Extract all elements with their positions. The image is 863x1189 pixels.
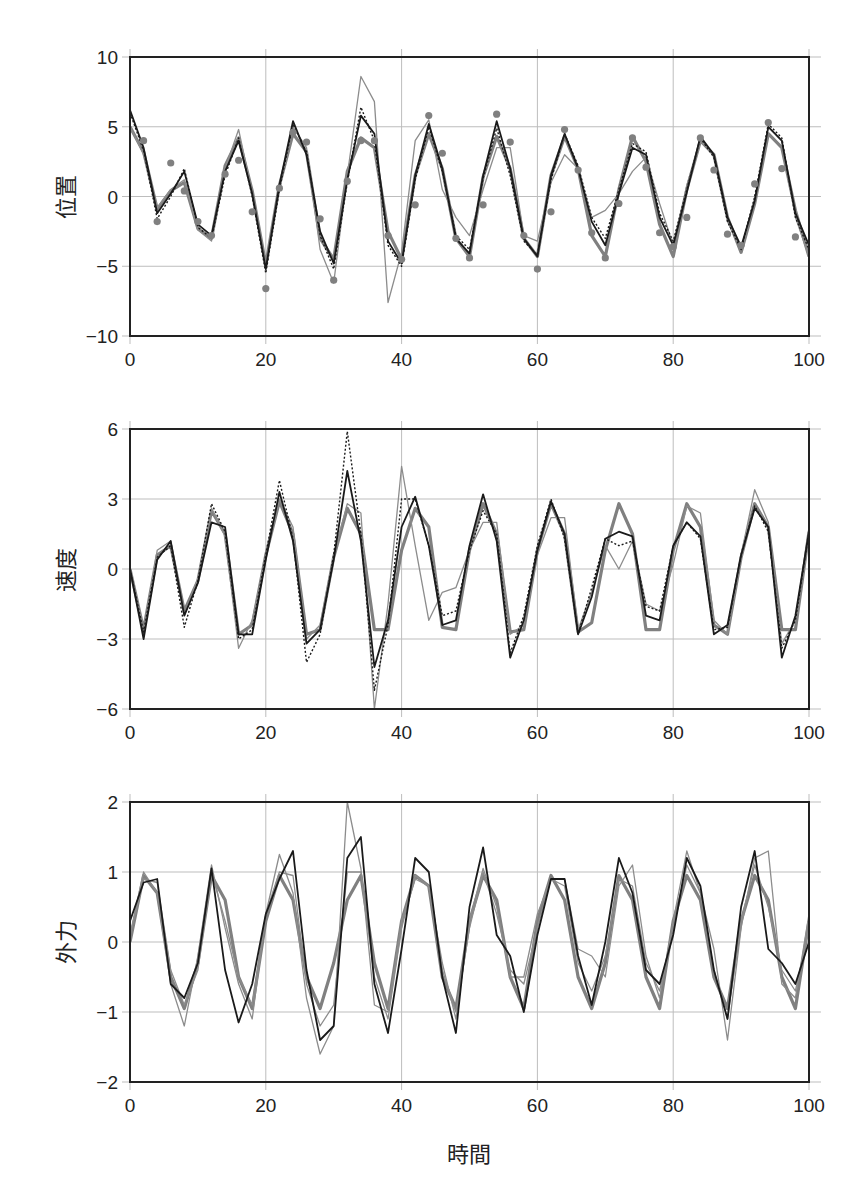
y-axis-label: 位置	[54, 175, 79, 219]
observation-dot	[289, 129, 296, 136]
x-tick-label: 0	[125, 1095, 136, 1116]
observation-dot	[602, 254, 609, 261]
x-tick-label: 80	[663, 1095, 684, 1116]
observation-dot	[167, 159, 174, 166]
observation-dot	[792, 233, 799, 240]
y-tick-label: −3	[96, 629, 118, 650]
observation-dot	[344, 178, 351, 185]
x-tick-label: 80	[663, 722, 684, 743]
y-tick-label: −1	[96, 1002, 118, 1023]
observation-dot	[778, 165, 785, 172]
x-tick-label: 40	[391, 722, 412, 743]
observation-dot	[221, 171, 228, 178]
y-tick-label: 10	[97, 47, 118, 68]
observation-dot	[357, 137, 364, 144]
panel-position: 0204060801001050−5−10位置	[54, 47, 825, 370]
plot-area	[130, 431, 809, 709]
observation-dot	[534, 265, 541, 272]
observation-dot	[765, 119, 772, 126]
x-tick-label: 40	[391, 349, 412, 370]
y-tick-label: 5	[107, 117, 118, 138]
observation-dot	[588, 229, 595, 236]
observation-dot	[670, 243, 677, 250]
x-tick-label: 20	[255, 349, 276, 370]
x-tick-label: 100	[793, 722, 825, 743]
y-tick-label: −10	[86, 326, 118, 347]
observation-dot	[724, 231, 731, 238]
series-black-dotted	[130, 107, 809, 273]
observation-dot	[425, 112, 432, 119]
series-black-dotted	[130, 431, 809, 690]
observation-dot	[547, 208, 554, 215]
y-axis-label: 速度	[54, 548, 79, 592]
observation-dot	[561, 126, 568, 133]
y-tick-label: −6	[96, 699, 118, 720]
observation-dot	[208, 232, 215, 239]
observation-dot	[642, 164, 649, 171]
panel-velocity: 020406080100630−3−6速度	[54, 419, 825, 743]
x-tick-label: 0	[125, 349, 136, 370]
observation-dot	[751, 180, 758, 187]
plot-area	[130, 802, 809, 1054]
observation-dot	[683, 214, 690, 221]
observation-dot	[710, 166, 717, 173]
observation-dot	[439, 150, 446, 157]
observation-dot	[575, 166, 582, 173]
observation-dot	[262, 285, 269, 292]
y-tick-label: 0	[107, 187, 118, 208]
x-tick-label: 100	[793, 1095, 825, 1116]
observation-dot	[317, 215, 324, 222]
observation-dot	[235, 157, 242, 164]
observation-dot	[249, 208, 256, 215]
observation-dot	[520, 232, 527, 239]
x-tick-label: 20	[255, 722, 276, 743]
x-tick-label: 60	[527, 349, 548, 370]
observation-dot	[629, 134, 636, 141]
observation-dot	[452, 235, 459, 242]
series-black-solid	[130, 110, 809, 269]
y-tick-label: 0	[107, 932, 118, 953]
observation-dot	[479, 201, 486, 208]
x-tick-label: 20	[255, 1095, 276, 1116]
y-tick-label: 0	[107, 559, 118, 580]
figure: 0204060801001050−5−10位置 020406080100630−…	[0, 0, 863, 1189]
y-tick-label: 3	[107, 489, 118, 510]
series-thin-gray	[130, 77, 809, 303]
observation-dot	[412, 201, 419, 208]
x-axis-label: 時間	[447, 1142, 491, 1167]
observation-dot	[194, 218, 201, 225]
observation-dot	[384, 232, 391, 239]
observation-dot	[140, 137, 147, 144]
x-tick-label: 60	[527, 722, 548, 743]
x-tick-label: 40	[391, 1095, 412, 1116]
x-tick-label: 60	[527, 1095, 548, 1116]
observation-dot	[507, 138, 514, 145]
observation-dot	[303, 138, 310, 145]
x-tick-label: 80	[663, 349, 684, 370]
observation-dot	[738, 242, 745, 249]
observation-dot	[615, 200, 622, 207]
plot-area	[130, 77, 809, 303]
x-tick-label: 100	[793, 349, 825, 370]
observation-dot	[398, 256, 405, 263]
observation-dot	[181, 187, 188, 194]
y-tick-label: −2	[96, 1072, 118, 1093]
y-tick-label: 6	[107, 419, 118, 440]
y-tick-label: −5	[96, 256, 118, 277]
observation-dot	[493, 111, 500, 118]
observation-dot	[371, 137, 378, 144]
observation-dot	[656, 229, 663, 236]
observation-dot	[154, 218, 161, 225]
y-tick-label: 2	[107, 792, 118, 813]
y-tick-label: 1	[107, 862, 118, 883]
observation-dot	[276, 185, 283, 192]
observation-dot	[697, 134, 704, 141]
observation-dot	[466, 254, 473, 261]
y-axis-label: 外力	[54, 920, 79, 964]
panel-external-force: 020406080100210−1−2外力	[54, 792, 825, 1116]
x-tick-label: 0	[125, 722, 136, 743]
observation-dot	[330, 277, 337, 284]
